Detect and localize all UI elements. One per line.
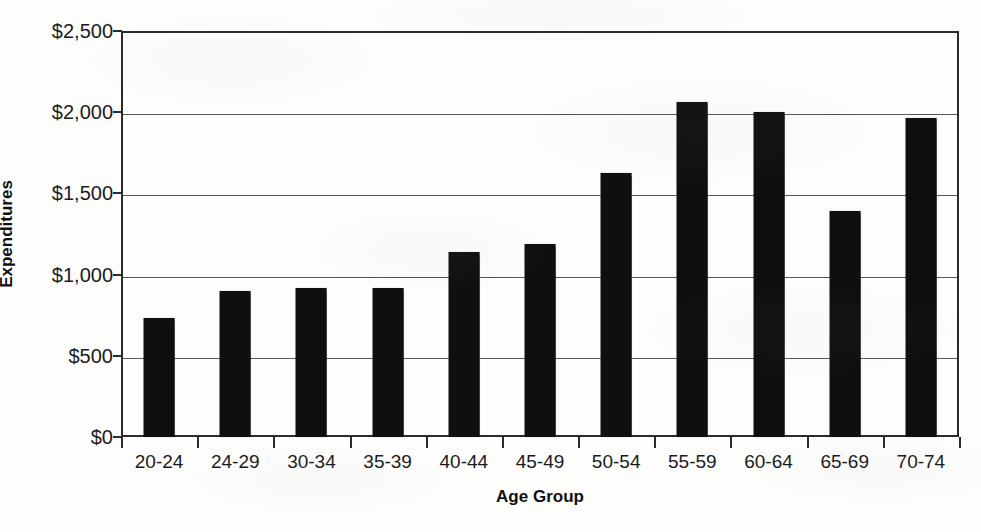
y-axis-tick-label: $2,000 bbox=[29, 101, 113, 124]
bar-slot bbox=[578, 31, 654, 437]
bar[interactable] bbox=[448, 252, 479, 437]
bar-series bbox=[121, 31, 959, 437]
y-axis-tick-label: $2,500 bbox=[29, 20, 113, 43]
y-axis-tick-label: $1,000 bbox=[29, 263, 113, 286]
x-axis-tick-label: 70-74 bbox=[883, 451, 959, 473]
bar-slot bbox=[807, 31, 883, 437]
x-axis-tick-mark bbox=[502, 437, 504, 448]
bar[interactable] bbox=[372, 288, 403, 437]
x-axis-tick-mark bbox=[807, 437, 809, 448]
y-axis-tick-label: $1,500 bbox=[29, 182, 113, 205]
bar[interactable] bbox=[296, 288, 327, 437]
bar-slot bbox=[426, 31, 502, 437]
bar[interactable] bbox=[525, 244, 556, 437]
x-axis-tick-label: 35-39 bbox=[350, 451, 426, 473]
bar-slot bbox=[273, 31, 349, 437]
bar[interactable] bbox=[144, 318, 175, 437]
x-axis-tick-mark bbox=[883, 437, 885, 448]
bar[interactable] bbox=[220, 291, 251, 437]
y-axis-tick-label: $0 bbox=[29, 426, 113, 449]
x-axis-tick-mark bbox=[197, 437, 199, 448]
bar-slot bbox=[121, 31, 197, 437]
x-axis-tick-mark bbox=[426, 437, 428, 448]
bar-slot bbox=[730, 31, 806, 437]
x-axis-tick-mark bbox=[959, 437, 961, 448]
bar[interactable] bbox=[829, 211, 860, 437]
x-axis-tick-label: 30-34 bbox=[273, 451, 349, 473]
x-axis-tick-label: 40-44 bbox=[426, 451, 502, 473]
x-axis-tick-mark bbox=[350, 437, 352, 448]
x-axis-tick-labels: 20-2424-2930-3435-3940-4445-4950-5455-59… bbox=[121, 451, 959, 479]
x-axis-tick-label: 45-49 bbox=[502, 451, 578, 473]
x-axis-tick-label: 20-24 bbox=[121, 451, 197, 473]
x-axis-tick-mark bbox=[121, 437, 123, 448]
x-axis-tick-mark bbox=[273, 437, 275, 448]
bar[interactable] bbox=[905, 118, 936, 437]
x-axis-tick-mark bbox=[730, 437, 732, 448]
x-axis-tick-mark bbox=[654, 437, 656, 448]
x-axis-tick-label: 65-69 bbox=[807, 451, 883, 473]
bar[interactable] bbox=[677, 102, 708, 437]
y-axis-title: Expenditures bbox=[0, 180, 17, 288]
bar[interactable] bbox=[601, 173, 632, 437]
bar-slot bbox=[197, 31, 273, 437]
x-axis-tick-mark bbox=[578, 437, 580, 448]
x-axis-title: Age Group bbox=[121, 487, 959, 507]
y-axis-tick-label: $500 bbox=[29, 344, 113, 367]
bar-slot bbox=[654, 31, 730, 437]
bar-slot bbox=[883, 31, 959, 437]
x-axis-tick-label: 24-29 bbox=[197, 451, 273, 473]
x-axis-tick-label: 60-64 bbox=[730, 451, 806, 473]
chart-screenshot: $0$500$1,000$1,500$2,000$2,500 Expenditu… bbox=[0, 0, 981, 532]
bar[interactable] bbox=[753, 112, 784, 437]
bar-slot bbox=[502, 31, 578, 437]
x-axis-tick-label: 55-59 bbox=[654, 451, 730, 473]
x-axis-tick-label: 50-54 bbox=[578, 451, 654, 473]
bar-slot bbox=[350, 31, 426, 437]
